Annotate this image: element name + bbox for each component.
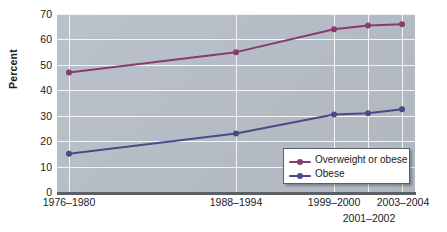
chart-legend: Overweight or obeseObese — [283, 148, 410, 184]
data-point-marker — [233, 131, 239, 137]
series-line — [69, 24, 402, 72]
data-point-marker — [331, 111, 337, 117]
legend-label: Obese — [315, 168, 344, 180]
y-axis-tick-label: 30 — [26, 110, 52, 122]
legend-marker-icon — [289, 154, 311, 166]
y-axis-tick-label: 60 — [26, 33, 52, 45]
data-point-marker — [331, 26, 337, 32]
legend-marker-icon — [289, 168, 311, 180]
x-axis-line — [57, 192, 416, 195]
data-point-marker — [66, 69, 72, 75]
data-point-marker — [365, 22, 371, 28]
data-point-marker — [365, 110, 371, 116]
x-axis-tick-label: 2003–2004 — [377, 196, 430, 208]
line-chart: Percent 010203040506070 1976–19801988–19… — [0, 0, 447, 232]
data-point-marker — [399, 21, 405, 27]
legend-item: Overweight or obese — [289, 153, 404, 167]
data-point-marker — [233, 49, 239, 55]
y-axis-tick-label: 50 — [26, 59, 52, 71]
legend-label: Overweight or obese — [315, 154, 407, 166]
x-axis-tick-label: 2001–2002 — [343, 212, 396, 224]
x-axis-tick-label: 1976–1980 — [43, 196, 96, 208]
y-axis-title: Percent — [7, 67, 19, 89]
data-point-marker — [399, 106, 405, 112]
y-axis-tick-label: 70 — [26, 8, 52, 20]
y-axis-tick-label: 20 — [26, 135, 52, 147]
y-axis-tick-label: 10 — [26, 161, 52, 173]
data-point-marker — [66, 151, 72, 157]
x-axis-tick-label: 1988–1994 — [210, 196, 263, 208]
y-axis-tick-label: 40 — [26, 84, 52, 96]
y-axis-tick-labels: 010203040506070 — [26, 14, 52, 192]
legend-item: Obese — [289, 167, 404, 181]
x-axis-tick-label: 1999–2000 — [308, 196, 361, 208]
x-axis-tick-labels: 1976–19801988–19941999–20002003–20042001… — [0, 196, 447, 232]
